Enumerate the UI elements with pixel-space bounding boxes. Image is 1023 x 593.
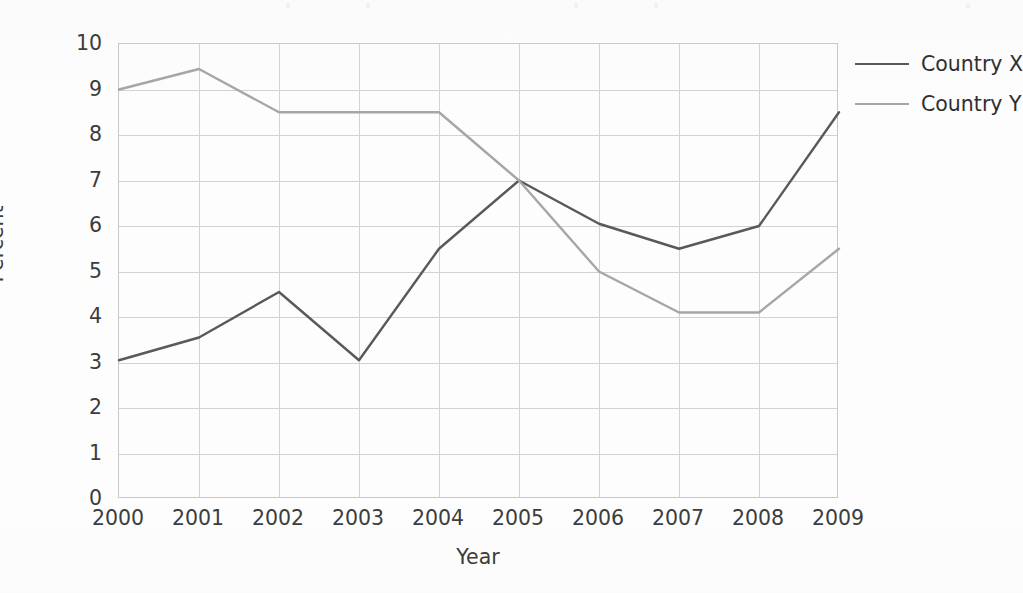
x-axis-title: Year bbox=[118, 545, 838, 569]
x-axis-tick-label: 2004 bbox=[412, 508, 464, 529]
line-chart: 012345678910 Percent 2000200120022003200… bbox=[0, 0, 1023, 593]
x-axis-tick-label: 2006 bbox=[572, 508, 624, 529]
y-axis-tick-label: 5 bbox=[56, 260, 102, 281]
y-axis-tick-label: 8 bbox=[56, 124, 102, 145]
series-line bbox=[119, 112, 839, 360]
x-axis-tick-label: 2005 bbox=[492, 508, 544, 529]
y-axis-tick-label: 9 bbox=[56, 78, 102, 99]
chart-legend: Country XCountry Y bbox=[855, 44, 1023, 124]
legend-line-swatch bbox=[855, 63, 909, 65]
y-axis-tick-label: 1 bbox=[56, 442, 102, 463]
y-axis-tick-label: 6 bbox=[56, 215, 102, 236]
x-axis-tick-label: 2003 bbox=[332, 508, 384, 529]
legend-item-label: Country Y bbox=[921, 92, 1021, 116]
x-axis-tick-label: 2002 bbox=[252, 508, 304, 529]
legend-item[interactable]: Country Y bbox=[855, 84, 1023, 124]
y-axis-tick-label: 10 bbox=[56, 33, 102, 54]
legend-item[interactable]: Country X bbox=[855, 44, 1023, 84]
y-axis-tick-label: 4 bbox=[56, 306, 102, 327]
x-axis-tick-label: 2008 bbox=[732, 508, 784, 529]
y-axis-tick-label: 7 bbox=[56, 169, 102, 190]
x-axis-tick-label: 2000 bbox=[92, 508, 144, 529]
y-axis-ticks: 012345678910 bbox=[56, 43, 102, 498]
plot-area bbox=[118, 43, 838, 498]
x-axis-tick-label: 2007 bbox=[652, 508, 704, 529]
y-axis-tick-label: 2 bbox=[56, 397, 102, 418]
x-axis-tick-label: 2009 bbox=[812, 508, 864, 529]
x-axis-ticks: 2000200120022003200420052006200720082009 bbox=[118, 508, 838, 536]
y-axis-tick-label: 3 bbox=[56, 351, 102, 372]
legend-line-swatch bbox=[855, 103, 909, 105]
y-axis-title: Percent bbox=[0, 205, 8, 282]
series-line bbox=[119, 69, 839, 312]
series-layer bbox=[119, 44, 839, 499]
legend-item-label: Country X bbox=[921, 52, 1023, 76]
x-axis-tick-label: 2001 bbox=[172, 508, 224, 529]
